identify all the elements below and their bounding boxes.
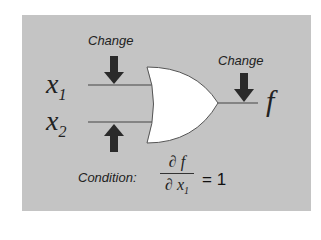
arrow-down-icon xyxy=(234,73,254,102)
output-f-label: f xyxy=(266,84,274,118)
change-label-input: Change xyxy=(88,33,134,48)
input-x2-label: x2 xyxy=(46,105,66,141)
arrow-up-icon xyxy=(104,124,124,152)
arrow-down-icon xyxy=(104,56,124,84)
input-x1-label: x1 xyxy=(46,68,66,104)
fraction-numerator: ∂ f xyxy=(160,152,194,172)
condition-label: Condition: xyxy=(78,170,137,185)
condition-equals: = 1 xyxy=(202,170,226,190)
change-label-output: Change xyxy=(218,53,264,68)
or-gate-icon xyxy=(147,67,218,143)
fraction-denominator: ∂ x1 xyxy=(160,175,194,195)
partial-derivative-fraction: ∂ f ∂ x1 xyxy=(160,152,194,195)
fraction-bar xyxy=(160,173,194,174)
